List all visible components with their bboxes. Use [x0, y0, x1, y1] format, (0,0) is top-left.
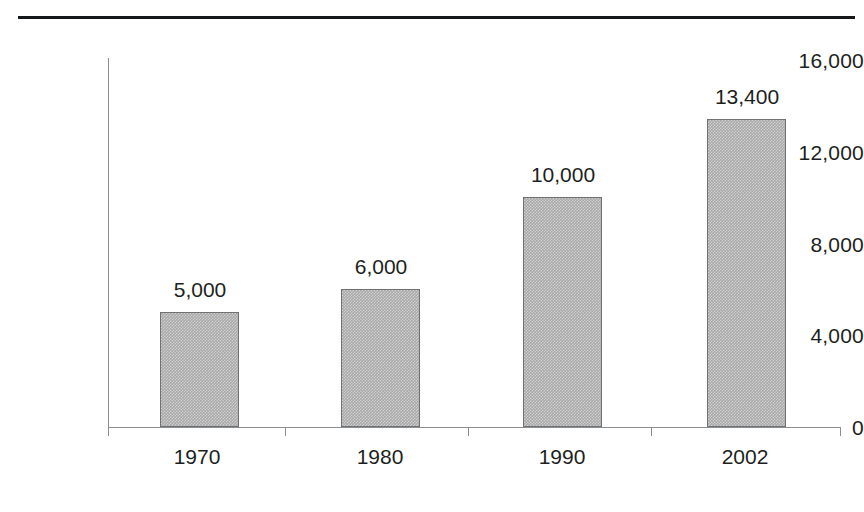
bar-2002[interactable]: [707, 119, 786, 427]
x-axis-label-2002: 2002: [670, 445, 820, 469]
x-axis-line: [108, 427, 841, 428]
bar-value-label-2002: 13,400: [667, 86, 827, 107]
y-axis-tick-label: 16,000: [768, 50, 864, 71]
x-axis-label-1970: 1970: [122, 445, 272, 469]
x-axis-tick: [468, 427, 469, 436]
bar-1980[interactable]: [341, 289, 420, 427]
bar-value-label-1990: 10,000: [483, 164, 643, 185]
bar-1970[interactable]: [160, 312, 239, 427]
bar-value-label-1970: 5,000: [120, 279, 280, 300]
x-axis-tick: [108, 427, 109, 436]
y-axis-line: [108, 58, 109, 428]
bar-chart: 16,000 12,000 8,000 4,000 0 5,000 6,000 …: [0, 0, 864, 512]
chart-page: 16,000 12,000 8,000 4,000 0 5,000 6,000 …: [0, 0, 864, 512]
bar-1990[interactable]: [523, 197, 602, 427]
x-axis-tick: [840, 427, 841, 436]
x-axis-tick: [651, 427, 652, 436]
x-axis-tick: [285, 427, 286, 436]
x-axis-label-1990: 1990: [487, 445, 637, 469]
x-axis-label-1980: 1980: [305, 445, 455, 469]
bar-value-label-1980: 6,000: [301, 256, 461, 277]
